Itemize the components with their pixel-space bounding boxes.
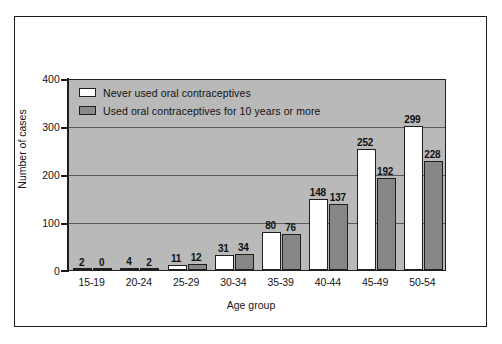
bar-15-19-series-1	[93, 268, 112, 270]
bar-20-24-series-1	[140, 268, 159, 270]
bar-25-29-series-0	[168, 265, 187, 270]
bar-value-label-35-39-series-1: 76	[274, 222, 308, 233]
bar-15-19-series-0	[73, 268, 92, 270]
gridline-300	[69, 127, 445, 128]
bar-25-29-series-1	[188, 264, 207, 270]
legend-label-used-10-years: Used oral contraceptives for 10 years or…	[103, 105, 321, 117]
bar-value-label-50-54-series-0: 299	[395, 114, 429, 125]
bar-45-49-series-1	[377, 178, 396, 270]
y-tick-label-400: 400	[14, 73, 60, 85]
legend-label-never-used: Never used oral contraceptives	[103, 87, 251, 99]
legend-item-never-used: Never used oral contraceptives	[79, 85, 339, 100]
y-tick-label-0: 0	[14, 265, 60, 277]
bar-value-label-30-34-series-1: 34	[226, 242, 260, 253]
bar-40-44-series-1	[329, 204, 348, 270]
bar-50-54-series-1	[424, 161, 443, 270]
y-axis-tick-0	[61, 270, 68, 272]
x-axis-title: Age group	[0, 299, 502, 311]
y-axis-tick-400	[61, 79, 68, 81]
legend-swatch-icon-never-used	[79, 88, 96, 97]
y-axis-tick-100	[61, 223, 68, 225]
bar-40-44-series-0	[309, 199, 328, 270]
bar-35-39-series-0	[262, 232, 281, 270]
bar-value-label-45-49-series-1: 192	[368, 166, 402, 177]
bar-35-39-series-1	[282, 234, 301, 270]
chart-figure: 400 300 200 100 0 Number of cases Never …	[0, 0, 502, 344]
legend-swatch-icon-used-10-years	[79, 106, 96, 115]
bar-value-label-50-54-series-1: 228	[415, 149, 449, 160]
bar-20-24-series-0	[120, 268, 139, 270]
bar-30-34-series-0	[215, 255, 234, 270]
chart-legend: Never used oral contraceptives Used oral…	[79, 85, 339, 121]
x-tick-label-50-54: 50-54	[392, 276, 452, 288]
bar-value-label-45-49-series-0: 252	[348, 137, 382, 148]
legend-item-used-10-years: Used oral contraceptives for 10 years or…	[79, 103, 339, 118]
y-axis-title: Number of cases	[16, 89, 28, 209]
bar-30-34-series-1	[235, 254, 254, 270]
y-axis-tick-200	[61, 175, 68, 177]
bar-value-label-40-44-series-1: 137	[321, 192, 355, 203]
y-tick-label-100: 100	[14, 217, 60, 229]
y-axis-tick-300	[61, 127, 68, 129]
